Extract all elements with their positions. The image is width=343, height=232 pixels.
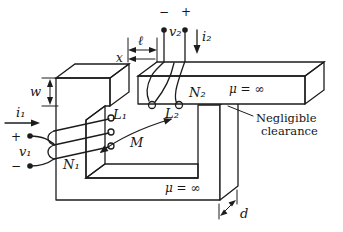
current-i1-arrow [5, 120, 40, 127]
core-arm-right-face [110, 64, 129, 106]
label-plus2: + [181, 5, 191, 19]
label-x: x [116, 51, 123, 65]
label-N2: N₂ [188, 85, 206, 100]
label-v2: v₂ [169, 24, 182, 39]
label-ell: ℓ [138, 33, 144, 48]
label-w: w [30, 84, 41, 99]
label-v1: v₁ [19, 144, 32, 159]
label-L2: L₂ [164, 106, 179, 121]
terminal-v2-plus [182, 27, 188, 33]
dimension-x [128, 56, 155, 62]
note-negligible: Negligible [256, 111, 317, 125]
label-mu-top: μ = ∞ [229, 82, 264, 96]
magnetic-circuit-diagram: w ℓ x d i₁ + v₁ − N₁ L₁ M − v₂ + i₂ N₂ L… [0, 0, 343, 232]
label-minus1: − [11, 159, 21, 173]
core-arm-top-face [56, 64, 129, 78]
label-minus2: − [159, 5, 169, 19]
label-d: d [240, 206, 248, 221]
label-L1: L₁ [112, 107, 127, 122]
label-i1: i₁ [16, 105, 25, 120]
core-right-leg-depth-face [220, 91, 238, 200]
magnetic-circuit-figure: w ℓ x d i₁ + v₁ − N₁ L₁ M − v₂ + i₂ N₂ L… [0, 0, 343, 232]
current-i2-arrow [194, 30, 201, 54]
label-plus1: + [11, 130, 21, 144]
label-mu-bottom: μ = ∞ [165, 181, 200, 195]
label-i2: i₂ [202, 29, 211, 44]
bar-right-end-face [305, 62, 324, 104]
label-N1: N₁ [62, 157, 80, 172]
terminal-v1-minus [27, 163, 33, 169]
terminal-v1-plus [27, 133, 33, 139]
terminal-v2-minus [161, 27, 167, 33]
note-clearance: clearance [261, 124, 318, 138]
label-M: M [129, 135, 144, 150]
core-window-bottom-face [86, 164, 198, 178]
bar-top-face [138, 62, 324, 76]
